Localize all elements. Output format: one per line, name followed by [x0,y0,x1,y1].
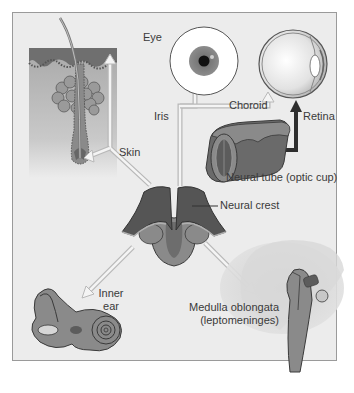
label-skin: Skin [119,146,140,159]
label-neural-crest: Neural crest [220,199,279,212]
label-retina: Retina [303,110,335,123]
label-choroid: Choroid [229,99,268,112]
label-iris: Iris [154,110,169,123]
label-medulla: Medulla oblongata (leptomeninges) [171,301,279,327]
label-inner-ear-line2: ear [96,300,126,313]
label-medulla-line2: (leptomeninges) [171,314,279,327]
label-neural-tube: Neural tube (optic cup) [226,171,337,184]
skin-illustration [29,18,117,178]
neural-crest-illustration [122,187,226,266]
label-inner-ear: Inner ear [96,287,126,313]
eye-front-illustration [170,27,238,95]
label-medulla-line1: Medulla oblongata [171,301,279,314]
label-eye: Eye [143,31,162,44]
label-inner-ear-line1: Inner [96,287,126,300]
eyeball-illustration [259,30,327,98]
diagram-artwork [0,0,354,393]
